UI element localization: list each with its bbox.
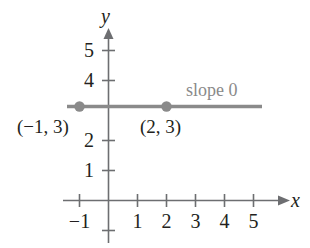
point-label-left: (−1, 3) — [17, 117, 69, 136]
x-tick-label--1: −1 — [63, 211, 96, 231]
y-tick-label-2: 2 — [80, 130, 98, 150]
x-tick-label-1: 1 — [128, 211, 147, 231]
x-tick-label-4: 4 — [215, 211, 234, 231]
y-axis-label: y — [101, 6, 110, 26]
slope-annotation: slope 0 — [186, 81, 238, 99]
coordinate-plane-figure: y x 5 4 2 1 −1 1 2 3 4 5 (−1, 3) (2, 3) … — [0, 0, 310, 248]
x-axis — [63, 196, 290, 206]
y-tick-label-4: 4 — [80, 70, 98, 90]
x-tick-label-3: 3 — [186, 211, 205, 231]
x-axis-arrowhead — [278, 196, 290, 206]
y-axis — [104, 28, 114, 243]
y-tick-label-5: 5 — [80, 40, 98, 60]
x-tick-label-2: 2 — [157, 211, 176, 231]
x-axis-label: x — [291, 190, 300, 210]
y-tick-label-1: 1 — [80, 160, 98, 180]
data-point-2-3 — [161, 101, 171, 111]
point-label-right: (2, 3) — [140, 117, 181, 136]
data-point--1-3 — [74, 101, 84, 111]
x-tick-label-5: 5 — [244, 211, 263, 231]
y-axis-arrowhead — [104, 28, 114, 39]
